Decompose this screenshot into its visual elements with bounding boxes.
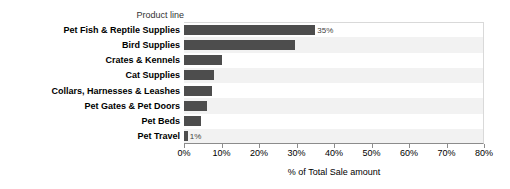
category-label: Pet Gates & Pet Doors xyxy=(26,98,184,113)
x-axis-tick-label: 10% xyxy=(212,148,230,158)
bar-row: Crates & Kennels xyxy=(26,53,484,68)
x-axis-tick-label: 0% xyxy=(177,148,190,158)
x-axis: 0%10%20%30%40%50%60%70%80% xyxy=(184,144,484,166)
bar-row: Pet Gates & Pet Doors xyxy=(26,98,484,113)
bar[interactable] xyxy=(184,25,315,35)
bar-track xyxy=(184,98,484,113)
category-label: Collars, Harnesses & Leashes xyxy=(26,83,184,98)
bar[interactable] xyxy=(184,86,212,96)
category-label: Pet Beds xyxy=(26,114,184,129)
bar-track xyxy=(184,114,484,129)
bar-track: 35% xyxy=(184,22,484,37)
bar[interactable] xyxy=(184,55,222,65)
bar-track xyxy=(184,53,484,68)
category-label: Crates & Kennels xyxy=(26,53,184,68)
category-label: Bird Supplies xyxy=(26,37,184,52)
bar-value-label: 1% xyxy=(188,132,202,141)
bar[interactable] xyxy=(184,116,201,126)
x-axis-tick-label: 60% xyxy=(400,148,418,158)
product-line-header: Product line xyxy=(26,10,184,21)
bar-track xyxy=(184,68,484,83)
bar-chart: Product line Pet Fish & Reptile Supplies… xyxy=(0,0,510,189)
bar-track xyxy=(184,83,484,98)
bar[interactable] xyxy=(184,40,295,50)
bar[interactable] xyxy=(184,101,207,111)
x-axis-tick-label: 30% xyxy=(287,148,305,158)
bar-row: Bird Supplies xyxy=(26,37,484,52)
bar[interactable] xyxy=(184,70,214,80)
x-axis-title: % of Total Sale amount xyxy=(184,167,484,177)
bar-row: Pet Travel1% xyxy=(26,129,484,144)
x-axis-tick-label: 40% xyxy=(325,148,343,158)
bar-row: Collars, Harnesses & Leashes xyxy=(26,83,484,98)
bar-row: Pet Beds xyxy=(26,114,484,129)
bar-track xyxy=(184,37,484,52)
x-axis-tick-label: 20% xyxy=(250,148,268,158)
category-label: Pet Fish & Reptile Supplies xyxy=(26,22,184,37)
x-axis-tick-label: 70% xyxy=(437,148,455,158)
x-axis-tick-label: 80% xyxy=(475,148,493,158)
category-label: Cat Supplies xyxy=(26,68,184,83)
category-label: Pet Travel xyxy=(26,129,184,144)
x-axis-tick-label: 50% xyxy=(362,148,380,158)
bar-track: 1% xyxy=(184,129,484,144)
plot-wrapper: Pet Fish & Reptile Supplies35%Bird Suppl… xyxy=(26,22,484,144)
bar-row: Cat Supplies xyxy=(26,68,484,83)
bar-value-label: 35% xyxy=(315,25,333,34)
bar-rows: Pet Fish & Reptile Supplies35%Bird Suppl… xyxy=(26,22,484,144)
bar-row: Pet Fish & Reptile Supplies35% xyxy=(26,22,484,37)
